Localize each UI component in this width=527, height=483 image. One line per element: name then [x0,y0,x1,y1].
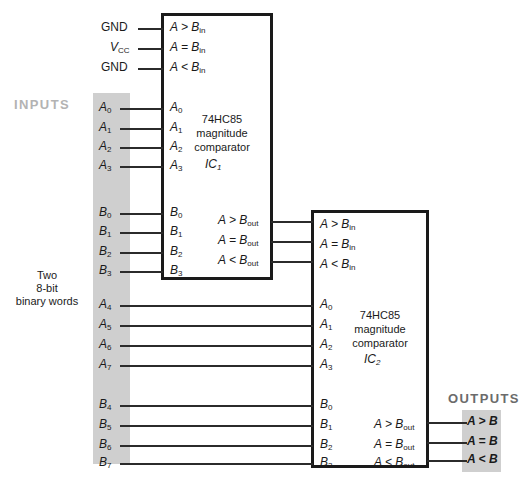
ic2-pin-a3: A3 [320,358,332,372]
ic1-out-gt: A > Bout [218,214,258,228]
bus-label-b5-sub: 5 [107,423,111,432]
ic2-pin-a0: A0 [320,298,332,312]
ic2-pin-a0-text: A [320,297,328,311]
bus-label-a7-text: A [99,357,107,371]
wire-b5-to-ic2 [120,425,313,427]
ic2-pin-a3-text: A [320,357,328,371]
wire-ic1-lt-to-ic2 [271,261,313,263]
bus-label-a0-sub: 0 [107,106,111,115]
ic1-part-text: 74HC85 magnitude comparator [178,112,266,154]
ic2-pin-a2-text: A [320,337,328,351]
wire-b2-to-ic1 [120,252,163,254]
bus-label-b4: B4 [99,398,111,412]
ic1-cascade-in-lt: A < Bin [170,61,205,75]
bus-label-b0: B0 [99,206,111,220]
ic1-pin-a1: A1 [170,121,182,135]
gnd-top-label: GND [101,21,128,33]
wire-a3-to-ic1 [120,166,163,168]
ic2-part-text: 74HC85 magnitude comparator [336,308,424,350]
bus-label-b3-sub: 3 [107,269,111,278]
ic1-pin-b3-text: B [170,263,178,277]
ic1-pin-b3: B3 [170,264,182,278]
ic1-pin-a1-sub: 1 [178,126,182,135]
bus-label-b7: B7 [99,456,111,470]
bus-label-a0-text: A [99,100,107,114]
wire-a6-to-ic2 [120,345,313,347]
ic1-pin-b3-sub: 3 [178,269,182,278]
ic1-pin-b1: B1 [170,225,182,239]
ic1-cascade-in-gt-text: A > B [170,20,199,34]
ic2-cascade-in-eq: A = Bin [320,238,355,252]
ic2-pin-b0-sub: 0 [328,403,332,412]
ic2-pin-a2: A2 [320,338,332,352]
wire-ic1-gt-to-ic2 [271,221,313,223]
ic1-out-lt-text: A < B [218,253,247,267]
bus-label-b6-sub: 6 [107,443,111,452]
wire-ic2-lt-to-output [427,460,467,462]
ic2-pin-b0-text: B [320,397,328,411]
bus-label-a1-sub: 1 [107,126,111,135]
bus-label-b3: B3 [99,264,111,278]
bus-label-a3-sub: 3 [107,164,111,173]
final-output-gt: A > B [467,415,498,427]
bus-description-line2: 8-bit [4,282,90,295]
bus-label-b5-text: B [99,417,107,431]
ic2-pin-a1-text: A [320,317,328,331]
bus-label-a6: A6 [99,338,111,352]
bus-label-b2-sub: 2 [107,250,111,259]
ic2-cascade-in-gt-text: A > B [320,217,349,231]
ic2-pin-a1: A1 [320,318,332,332]
ic2-pin-b1-sub: 1 [328,423,332,432]
bus-description: Two 8-bit binary words [4,269,90,308]
ic2-out-gt: A > Bout [374,418,414,432]
wire-b3-to-ic1 [120,271,163,273]
ic1-pin-a0: A0 [170,101,182,115]
ic2-pin-b1-text: B [320,417,328,431]
ic2-pin-a3-sub: 3 [328,363,332,372]
outputs-label: OUTPUTS [448,392,520,405]
bus-label-b5: B5 [99,418,111,432]
ic2-out-lt: A < Bout [374,456,414,470]
bus-label-b3-text: B [99,263,107,277]
bus-description-line3: binary words [4,295,90,308]
ic2-pin-b0: B0 [320,398,332,412]
ic2-pin-b2: B2 [320,438,332,452]
ic2-cascade-in-gt: A > Bin [320,218,355,232]
wire-b4-to-ic2 [120,405,313,407]
ic1-pin-b2: B2 [170,245,182,259]
ic1-pin-a0-sub: 0 [178,106,182,115]
ic1-cascade-in-lt-text: A < B [170,60,199,74]
ic2-pin-b3: B3 [320,456,332,470]
ic2-pin-b3-sub: 3 [328,461,332,470]
ic2-pin-a1-sub: 1 [328,323,332,332]
inputs-label: INPUTS [14,98,70,111]
ic1-pin-a0-text: A [170,100,178,114]
gnd-bottom-label: GND [101,61,128,73]
ic2-function-line2: comparator [336,336,424,350]
ic2-out-eq-text: A = B [374,437,403,451]
final-output-lt: A < B [467,453,498,465]
ic2-pin-a0-sub: 0 [328,303,332,312]
ic1-pin-a3: A3 [170,159,182,173]
ic2-pin-b2-text: B [320,437,328,451]
bus-description-line1: Two [4,269,90,282]
bus-label-a4-text: A [99,297,107,311]
ic2-cascade-in-eq-sub: in [349,243,355,252]
wire-ic2-eq-to-output [427,442,467,444]
bus-label-a5-text: A [99,317,107,331]
ic1-cascade-in-lt-sub: in [199,66,205,75]
ic2-out-eq: A = Bout [374,438,414,452]
wire-b6-to-ic2 [120,445,313,447]
ic1-pin-a2-text: A [170,139,178,153]
ic1-pin-a3-text: A [170,158,178,172]
vcc-label-sub: CC [118,46,130,55]
ic2-cascade-in-lt: A < Bin [320,258,355,272]
ic1-designator-sub: 1 [217,163,221,172]
wire-a2-to-ic1 [120,147,163,149]
wire-ic1-eq-to-ic2 [271,241,313,243]
bus-label-b1-text: B [99,224,107,238]
wire-b0-to-ic1 [120,213,163,215]
wire-vcc [138,48,163,50]
bus-label-b2-text: B [99,244,107,258]
bus-label-b1: B1 [99,225,111,239]
